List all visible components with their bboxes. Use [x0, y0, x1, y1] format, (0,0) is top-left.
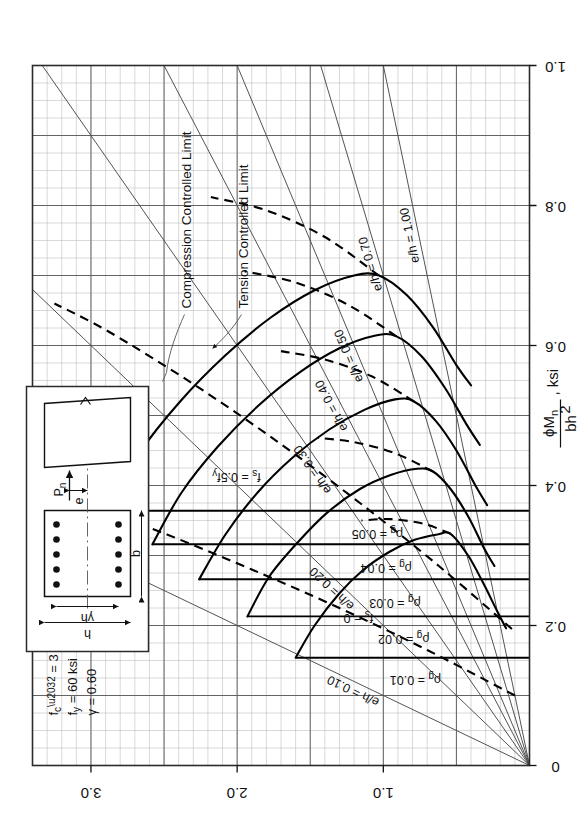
- figure-canvas: 00.20.40.60.81.0 1.02.03.0 ϕMn bh 2 , ks…: [0, 0, 588, 827]
- b-dimension-label: b: [128, 549, 142, 556]
- e-dimension-label: e: [71, 497, 85, 504]
- y-tick-label: 3.0: [80, 784, 101, 801]
- gamma-h-dimension-label: γh: [80, 610, 93, 624]
- svg-text:γ = 0.60: γ = 0.60: [83, 668, 98, 715]
- svg-text:, ksi: , ksi: [543, 368, 560, 395]
- interaction-diagram-svg: 00.20.40.60.81.0 1.02.03.0 ϕMn bh 2 , ks…: [0, 0, 588, 827]
- x-tick-label: 0: [551, 758, 559, 775]
- tension-controlled-limit-label: Tension Controlled Limit: [235, 164, 250, 308]
- x-tick-label: 0.2: [545, 618, 566, 635]
- svg-text:fy = 60 ksi: fy = 60 ksi: [64, 657, 81, 715]
- x-tick-label: 0.4: [545, 478, 566, 495]
- svg-text:h: h: [83, 626, 90, 640]
- section-sketch: h γh b Pn e: [26, 386, 148, 651]
- svg-text:bh: bh: [561, 415, 578, 432]
- y-tick-label: 1.0: [372, 784, 393, 801]
- column-elevation: [44, 397, 130, 467]
- plot-area-wrapper: 00.20.40.60.81.0 1.02.03.0 ϕMn bh 2 , ks…: [0, 0, 588, 827]
- x-tick-label: 0.8: [545, 198, 566, 215]
- y-tick-label: 2.0: [226, 784, 247, 801]
- x-tick-label: 0.6: [545, 338, 566, 355]
- svg-text:2: 2: [555, 405, 572, 413]
- svg-text:γh: γh: [80, 610, 93, 624]
- x-tick-label: 1.0: [545, 58, 566, 75]
- compression-controlled-limit-label: Compression Controlled Limit: [178, 131, 193, 308]
- rotated-figure-group: 00.20.40.60.81.0 1.02.03.0 ϕMn bh 2 , ks…: [0, 0, 588, 827]
- h-dimension-label: h: [83, 626, 90, 640]
